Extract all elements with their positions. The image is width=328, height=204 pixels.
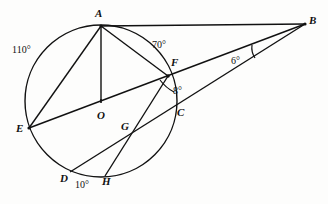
label-angle-8: 8° (173, 86, 182, 96)
label-point-e: E (16, 123, 23, 134)
label-point-h: H (102, 176, 111, 187)
label-angle-70: 70° (152, 40, 166, 50)
label-point-a: A (95, 8, 102, 19)
label-point-b: B (309, 15, 316, 26)
label-point-g: G (121, 121, 129, 132)
point-f-dot (166, 74, 170, 78)
geometry-figure: A B C D E F G H O 110° 70° 6° 8° 10° (0, 0, 328, 204)
segment-f-h (105, 76, 168, 176)
point-b-dot (303, 22, 306, 25)
label-point-o: O (97, 110, 105, 121)
label-angle-10: 10° (75, 180, 89, 190)
label-point-c: C (177, 107, 184, 118)
label-angle-6: 6° (231, 56, 240, 66)
segment-a-b (101, 24, 305, 26)
label-angle-110: 110° (12, 45, 31, 55)
angle-arc-at-b-icon (252, 45, 255, 58)
segment-a-e (29, 26, 101, 128)
point-a-dot (99, 24, 102, 27)
diagram-canvas (0, 0, 328, 204)
label-point-d: D (60, 173, 68, 184)
segment-d-c-b (70, 24, 305, 172)
label-point-f: F (171, 57, 178, 68)
point-e-dot (27, 126, 30, 129)
